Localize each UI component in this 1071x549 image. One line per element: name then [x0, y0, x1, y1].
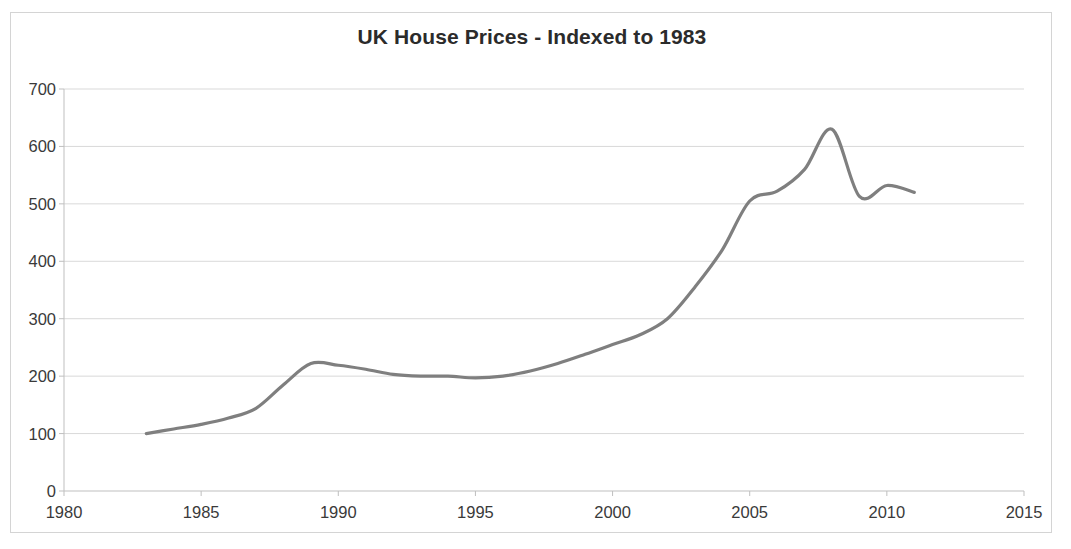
- x-axis-tick-label: 2005: [715, 503, 785, 522]
- y-axis-tick-label: 100: [10, 424, 56, 443]
- y-axis-tick-label: 600: [10, 137, 56, 156]
- x-axis-tick-label: 2015: [989, 503, 1059, 522]
- data-line-series-0: [146, 129, 914, 434]
- y-axis-tick-label: 400: [10, 252, 56, 271]
- y-axis-tick-label: 200: [10, 367, 56, 386]
- x-axis-tick-label: 1990: [303, 503, 373, 522]
- chart-frame: UK House Prices - Indexed to 1983 700600…: [10, 12, 1052, 533]
- x-axis-tick-label: 1995: [440, 503, 510, 522]
- x-axis-tick-label: 1985: [166, 503, 236, 522]
- y-axis-tick-label: 500: [10, 194, 56, 213]
- y-axis-tick-label: 0: [10, 482, 56, 501]
- x-axis-tick-label: 2010: [852, 503, 922, 522]
- x-axis-tick-label: 2000: [578, 503, 648, 522]
- gridlines: [64, 89, 1024, 434]
- tick-marks: [59, 89, 1024, 496]
- x-axis-tick-label: 1980: [29, 503, 99, 522]
- axis-lines: [64, 89, 1024, 491]
- plot-canvas: [11, 13, 1053, 534]
- y-axis-tick-label: 700: [10, 80, 56, 99]
- y-axis-tick-label: 300: [10, 309, 56, 328]
